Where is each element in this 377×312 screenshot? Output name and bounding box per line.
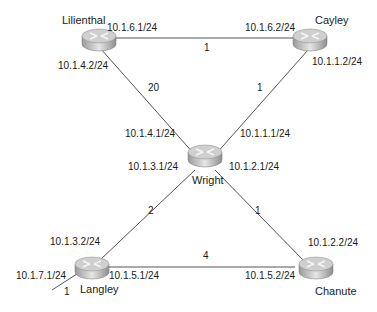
ip-lilienthal-cayley: 10.1.6.1/24 xyxy=(107,22,157,34)
ip-chanute-langley: 10.1.5.2/24 xyxy=(245,270,295,282)
ip-wright-cayley: 10.1.1.1/24 xyxy=(240,128,290,140)
ip-wright-lilienthal: 10.1.4.1/24 xyxy=(125,128,175,140)
ip-wright-chanute: 10.1.2.1/24 xyxy=(229,161,279,173)
router-wright-icon[interactable] xyxy=(187,144,223,168)
router-name-wright: Wright xyxy=(192,174,224,186)
cost-cayley-wright: 1 xyxy=(257,82,263,94)
router-name-chanute: Chanute xyxy=(315,285,357,297)
ip-wright-langley: 10.1.3.1/24 xyxy=(128,161,178,173)
router-name-langley: Langley xyxy=(80,283,119,295)
cost-lilienthal-wright: 20 xyxy=(148,82,159,94)
router-langley-icon[interactable] xyxy=(74,256,110,280)
cost-lilienthal-cayley: 1 xyxy=(204,42,210,54)
router-cayley-icon[interactable] xyxy=(292,28,328,52)
ip-langley-chanute: 10.1.5.1/24 xyxy=(109,270,159,282)
ip-cayley-lilienthal: 10.1.6.2/24 xyxy=(245,22,295,34)
router-name-lilienthal: Lilienthal xyxy=(62,14,105,26)
cost-wright-chanute: 1 xyxy=(255,205,261,217)
ip-lilienthal-wright: 10.1.4.2/24 xyxy=(58,60,108,72)
ip-langley-external: 10.1.7.1/24 xyxy=(16,270,66,282)
ip-langley-wright: 10.1.3.2/24 xyxy=(50,236,100,248)
ip-cayley-wright: 10.1.1.2/24 xyxy=(312,56,362,68)
router-name-cayley: Cayley xyxy=(315,14,349,26)
ip-chanute-wright: 10.1.2.2/24 xyxy=(308,237,358,249)
cost-wright-langley: 2 xyxy=(148,205,154,217)
router-chanute-icon[interactable] xyxy=(298,256,334,280)
cost-langley-chanute: 4 xyxy=(203,250,209,262)
cost-langley-external: 1 xyxy=(64,286,70,298)
